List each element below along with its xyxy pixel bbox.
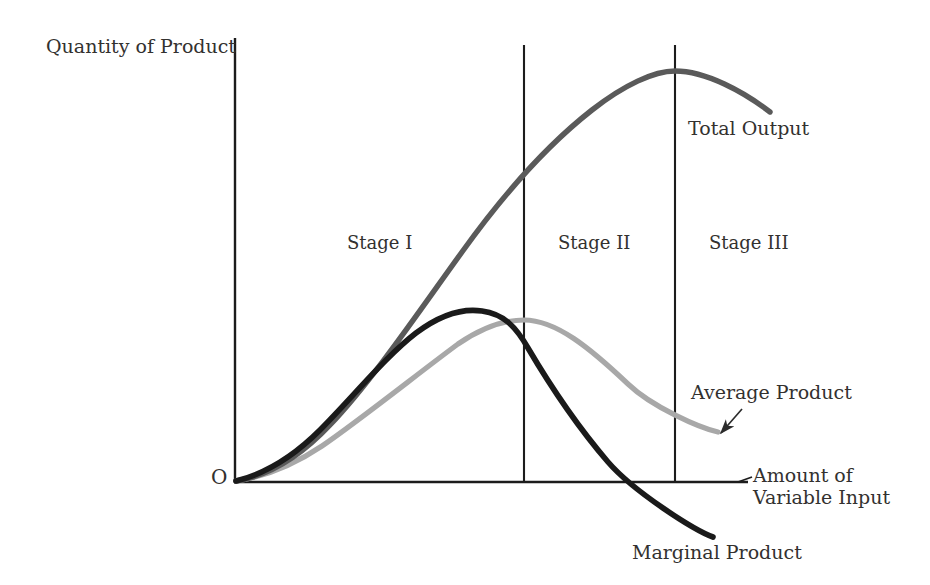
average-product-leader-line: [721, 409, 742, 433]
stage-three-label: Stage III: [709, 232, 789, 253]
x-axis-title-line-1: Amount of: [753, 464, 853, 486]
production-stages-chart: Quantity of Product Amount of Variable I…: [0, 0, 930, 585]
origin-label: O: [211, 466, 227, 490]
x-axis-title-line-2: Variable Input: [753, 486, 890, 508]
total-output-label: Total Output: [688, 117, 809, 139]
average-product-curve: [236, 320, 718, 481]
stage-one-label: Stage I: [347, 232, 412, 253]
marginal-product-curve: [236, 310, 713, 537]
x-axis-title: Amount of Variable Input: [753, 464, 890, 509]
stage-two-label: Stage II: [558, 232, 630, 253]
marginal-product-label: Marginal Product: [632, 541, 802, 563]
y-axis-title: Quantity of Product: [46, 35, 236, 57]
average-product-label: Average Product: [691, 381, 852, 403]
